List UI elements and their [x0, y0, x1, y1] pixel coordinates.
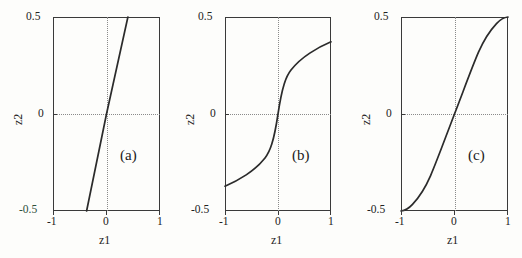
xtick-label-minus1-a: -1 [47, 216, 57, 228]
yaxis-title-a: z2 [12, 114, 24, 125]
xtick-label-0-a: 0 [103, 216, 109, 228]
xtick-label-0-c: 0 [451, 216, 457, 228]
ytick-label-0-b: 0 [210, 108, 216, 120]
plot-panel-a: 0.5 0 -0.5 -1 0 1 z1 z2 (a) [0, 0, 174, 258]
ytick-label-0.5-a: 0.5 [26, 11, 40, 23]
ytick-label-minus0.5-c: -0.5 [367, 204, 385, 216]
ytick-label-minus0.5-a: -0.5 [19, 204, 37, 216]
panel-label-a: (a) [120, 147, 137, 164]
panel-label-c: (c) [468, 147, 485, 164]
curve-a [53, 17, 160, 211]
ytick-mark-top-b [225, 17, 229, 18]
yaxis-title-b: z2 [184, 114, 196, 125]
xtick-label-1-a: 1 [157, 216, 163, 228]
xtick-label-minus1-c: -1 [395, 216, 405, 228]
ytick-label-0.5-b: 0.5 [198, 11, 212, 23]
xtick-label-1-b: 1 [328, 216, 334, 228]
plot-panel-c: 0.5 0 -0.5 -1 0 1 z1 z2 (c) [348, 0, 522, 258]
figure-three-sigmoid-panels: 0.5 0 -0.5 -1 0 1 z1 z2 (a) 0.5 0 -0.5 -… [0, 0, 522, 258]
xaxis-title-a: z1 [99, 234, 110, 246]
ytick-mark-top-c [401, 17, 405, 18]
yaxis-title-c: z2 [360, 114, 372, 125]
ytick-label-minus0.5-b: -0.5 [191, 204, 209, 216]
ytick-label-0-c: 0 [386, 108, 392, 120]
curve-c [401, 17, 508, 211]
ytick-mark-top-a [53, 17, 57, 18]
ytick-mark-mid-b [225, 114, 229, 115]
ytick-label-0.5-c: 0.5 [374, 11, 388, 23]
ytick-mark-mid-c [401, 114, 405, 115]
xtick-label-0-b: 0 [275, 216, 281, 228]
xaxis-title-b: z1 [271, 234, 282, 246]
xtick-label-1-c: 1 [505, 216, 511, 228]
xaxis-title-c: z1 [447, 234, 458, 246]
panel-label-b: (b) [292, 147, 310, 164]
curve-b [225, 17, 331, 211]
ytick-label-0-a: 0 [38, 108, 44, 120]
ytick-mark-mid-a [53, 114, 57, 115]
xtick-label-minus1-b: -1 [219, 216, 229, 228]
plot-panel-b: 0.5 0 -0.5 -1 0 1 z1 z2 (b) [174, 0, 348, 258]
